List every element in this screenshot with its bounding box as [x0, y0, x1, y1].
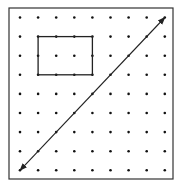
grid-dot: [55, 169, 58, 172]
grid-dot: [145, 150, 148, 153]
grid-dot: [73, 150, 76, 153]
grid-dot: [55, 112, 58, 115]
grid-dot: [91, 169, 94, 172]
grid-dot: [145, 74, 148, 77]
grid-dot: [37, 131, 40, 134]
grid-dot: [55, 93, 58, 96]
grid-dot: [109, 54, 112, 57]
grid-dot: [127, 112, 130, 115]
grid-dot: [164, 169, 167, 172]
grid-dot: [19, 112, 22, 115]
grid-dot: [37, 112, 40, 115]
grid-dot: [127, 150, 130, 153]
grid-dot: [145, 93, 148, 96]
grid-dot: [109, 169, 112, 172]
grid-dot: [145, 169, 148, 172]
grid-dot: [19, 35, 22, 38]
grid-dot: [164, 93, 167, 96]
diagram-frame: [9, 8, 173, 179]
grid-dot: [109, 93, 112, 96]
grid-dot: [145, 16, 148, 19]
grid-dot: [19, 54, 22, 57]
grid-dot: [73, 169, 76, 172]
grid-dot: [109, 112, 112, 115]
grid-dot: [109, 131, 112, 134]
grid-dot: [55, 54, 58, 57]
grid-dot: [19, 93, 22, 96]
grid-dot: [19, 131, 22, 134]
grid-dot: [164, 112, 167, 115]
grid-dot: [19, 150, 22, 153]
grid-dot: [109, 150, 112, 153]
dot-grid-diagram: [0, 0, 178, 182]
grid-dot: [127, 16, 130, 19]
grid-dot: [127, 35, 130, 38]
grid-dot: [91, 150, 94, 153]
grid-dot: [145, 112, 148, 115]
grid-dot: [55, 150, 58, 153]
grid-dot: [91, 16, 94, 19]
grid-dot: [55, 16, 58, 19]
grid-dot: [127, 74, 130, 77]
grid-dot: [37, 93, 40, 96]
grid-dot: [73, 93, 76, 96]
grid-dot: [164, 54, 167, 57]
grid-dot: [109, 16, 112, 19]
grid-dot: [109, 35, 112, 38]
grid-dot: [127, 169, 130, 172]
grid-dot: [127, 131, 130, 134]
grid-dot: [164, 74, 167, 77]
grid-dot: [19, 74, 22, 77]
grid-dot: [91, 131, 94, 134]
grid-dot: [164, 131, 167, 134]
grid-dot: [145, 131, 148, 134]
grid-dot: [37, 169, 40, 172]
grid-dot: [73, 54, 76, 57]
grid-dot: [164, 35, 167, 38]
grid-dot: [145, 54, 148, 57]
grid-dot: [73, 16, 76, 19]
grid-dot: [19, 16, 22, 19]
grid-dot: [73, 131, 76, 134]
grid-dot: [37, 16, 40, 19]
grid-dot: [127, 93, 130, 96]
highlighted-rectangle: [38, 37, 92, 75]
grid-dot: [164, 150, 167, 153]
grid-dot: [91, 112, 94, 115]
